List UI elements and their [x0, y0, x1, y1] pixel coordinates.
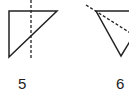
- triangle-shape-5: [9, 11, 57, 57]
- triangle-shape-6: [96, 11, 129, 56]
- figure-label-6: 6: [116, 76, 124, 91]
- symmetry-axis-6: [86, 5, 129, 34]
- figure-6: [86, 5, 129, 56]
- figure-label-5: 5: [18, 76, 26, 91]
- figure-5: [9, 0, 57, 58]
